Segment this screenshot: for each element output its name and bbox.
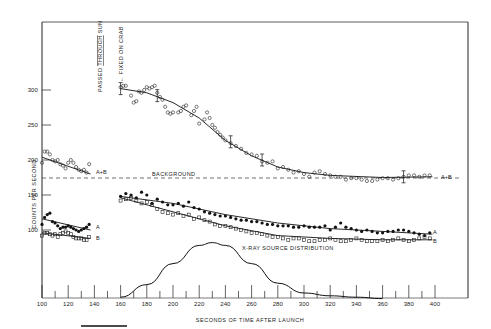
annotation-passed-through-sun: PASSED THROUGH SUN [97, 21, 103, 93]
xray-source-distribution-label: X-RAY SOURCE DISTRIBUTION [242, 245, 334, 251]
annotation-fixed-on-crab: ← FIXED ON CRAB [118, 26, 124, 82]
x-tick-label: 200 [168, 301, 179, 307]
x-tick-label: 100 [37, 301, 48, 307]
x-tick-label: 260 [246, 301, 257, 307]
x-tick-label: 240 [220, 301, 231, 307]
x-tick-label: 380 [404, 301, 415, 307]
x-tick-label: 300 [299, 301, 310, 307]
label-b-after: B [433, 238, 437, 244]
data-points [40, 84, 431, 243]
label-a-before: A [96, 224, 100, 230]
y-tick-label: 250 [28, 122, 39, 128]
x-tick-label: 400 [430, 301, 441, 307]
plot-frame [42, 22, 468, 298]
label-b-before: B [96, 235, 100, 241]
x-tick-label: 340 [351, 301, 362, 307]
x-axis-ticks: 1001201401601802002202402602803003203403… [37, 285, 441, 307]
x-tick-label: 220 [194, 301, 205, 307]
x-tick-label: 120 [63, 301, 74, 307]
chart-figure: 100150200250300 100120140160180200220240… [0, 0, 491, 329]
label-ab-before: A+B [96, 169, 107, 175]
x-tick-label: 360 [377, 301, 388, 307]
x-tick-label: 160 [115, 301, 126, 307]
label-ab-after: A+B [441, 174, 452, 180]
background-label: BACKGROUND [152, 171, 195, 177]
label-a-after: A [433, 229, 437, 235]
y-tick-label: 300 [28, 87, 39, 93]
x-tick-label: 140 [89, 301, 100, 307]
y-axis-title: COUNTS PER SECOND [31, 159, 37, 229]
fit-curves [42, 89, 432, 240]
x-tick-label: 320 [325, 301, 336, 307]
x-axis-title: SECONDS OF TIME AFTER LAUNCH [196, 317, 304, 323]
x-tick-label: 180 [142, 301, 153, 307]
x-tick-label: 280 [273, 301, 284, 307]
